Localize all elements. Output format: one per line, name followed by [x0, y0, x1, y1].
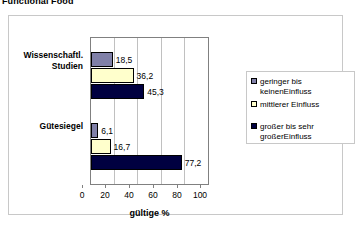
- x-tick-mark: [200, 185, 201, 188]
- bar-value-label: 6,1: [98, 126, 113, 136]
- bar-value-label: 18,5: [113, 55, 133, 65]
- x-tick-mark: [82, 185, 83, 188]
- x-tick-mark: [105, 185, 106, 188]
- legend-label: mittlerer Einfluss: [260, 100, 319, 110]
- x-tick-label: 100: [185, 190, 215, 200]
- legend-label: großer bis sehr großerEinfluss: [260, 122, 352, 141]
- bar-series1-cat1[interactable]: [91, 52, 113, 67]
- category-label-wissenschaftl-studien: Wissenschaftl. Studien: [9, 50, 83, 72]
- x-tick-mark: [177, 185, 178, 188]
- category-label-line: Studien: [9, 61, 83, 72]
- category-label-line: Gütesiegel: [9, 121, 83, 132]
- plot-area: 18,5 36,2 45,3 6,1 16,: [90, 37, 209, 185]
- bar-series3-cat1[interactable]: [91, 84, 144, 99]
- legend-label-line: Einfluss: [284, 132, 312, 141]
- category-label-line: Wissenschaftl.: [9, 50, 83, 61]
- bar-value-label: 45,3: [144, 87, 164, 97]
- category-label-guetesiegel: Gütesiegel: [9, 121, 83, 132]
- legend-swatch-icon: [251, 123, 257, 129]
- x-tick-mark: [129, 185, 130, 188]
- legend-item-grosser-bis-sehr-grosser-einfluss[interactable]: großer bis sehr großerEinfluss: [251, 122, 352, 141]
- bar-series2-cat2[interactable]: [91, 139, 111, 154]
- bar-group-wissenschaftl-studien: 18,5 36,2 45,3: [91, 52, 208, 99]
- legend-swatch-icon: [251, 101, 257, 107]
- chart-frame: Wissenschaftl. Studien Gütesiegel 0 20 4…: [8, 15, 343, 215]
- legend-item-mittlerer-einfluss[interactable]: mittlerer Einfluss: [251, 100, 352, 110]
- legend-swatch-icon: [251, 78, 257, 84]
- bar-value-label: 36,2: [134, 71, 154, 81]
- x-axis-title: gültige %: [90, 208, 209, 218]
- bar-value-label: 16,7: [111, 142, 131, 152]
- bar-series1-cat2[interactable]: [91, 123, 98, 138]
- x-tick-mark: [153, 185, 154, 188]
- legend-item-geringer-bis-keinen-einfluss[interactable]: geringer bis keinenEinfluss: [251, 77, 352, 96]
- legend: geringer bis keinenEinfluss mittlerer Ei…: [246, 71, 355, 144]
- bar-series3-cat2[interactable]: [91, 155, 182, 170]
- bar-group-guetesiegel: 6,1 16,7 77,2: [91, 123, 208, 170]
- page-title: Functional Food: [2, 0, 74, 6]
- legend-label-line: Einfluss: [284, 87, 312, 96]
- bar-series2-cat1[interactable]: [91, 68, 134, 83]
- legend-label: geringer bis keinenEinfluss: [260, 77, 352, 96]
- bar-value-label: 77,2: [182, 158, 202, 168]
